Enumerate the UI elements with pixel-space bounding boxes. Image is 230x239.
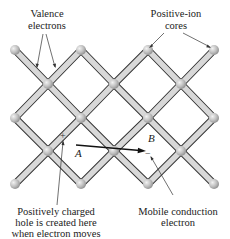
valence-bond [81, 151, 114, 184]
positive-ion-core [209, 179, 219, 189]
positive-ion-core [76, 45, 86, 55]
hole-label-line1: Positively charged [8, 206, 104, 217]
hole-label: Positively charged hole is created here … [8, 206, 104, 239]
valence-bond [15, 118, 48, 151]
positive-ion-core [76, 179, 86, 189]
positive-ion-core [43, 146, 53, 156]
valence-bond [48, 84, 81, 118]
hole-label-line2: hole is created here [8, 217, 104, 228]
positive-ion-core [176, 146, 186, 156]
positive-ion-core [10, 45, 20, 55]
crystal-lattice-diagram [0, 0, 230, 239]
valence-bond [15, 84, 48, 118]
point-b-label: B [148, 132, 155, 144]
bonds [15, 50, 214, 184]
positive-ion-core [209, 45, 219, 55]
leader-lines [37, 33, 210, 205]
positive-ion-core [209, 113, 219, 123]
ion-leader-2 [183, 33, 210, 47]
valence-bond [181, 118, 214, 151]
valence-leader-2 [46, 34, 55, 67]
valence-bond [148, 84, 181, 118]
mobile-electron-label: Mobile conduction electron [133, 206, 223, 228]
ion-label-line1: Positive-ion [145, 8, 207, 20]
valence-bond [81, 84, 114, 118]
valence-bond [48, 50, 81, 84]
valence-arrowhead-2 [53, 63, 56, 68]
mobile-label-line2: electron [133, 217, 223, 228]
positive-ion-core [176, 79, 186, 89]
positive-ion-core [109, 79, 119, 89]
valence-bond [148, 50, 181, 84]
electron-minus-sign: − [145, 148, 151, 159]
valence-bond [81, 50, 114, 84]
valence-bond [148, 151, 181, 184]
positive-ion-core [143, 113, 153, 123]
positive-ion-core [10, 179, 20, 189]
positive-ion-core [143, 179, 153, 189]
valence-electrons-label: Valence electrons [22, 8, 72, 32]
valence-bond [181, 151, 214, 184]
hole-plus-sign: + [60, 130, 66, 141]
valence-bond [114, 151, 148, 184]
hole-leader [57, 142, 63, 205]
mobile-label-line1: Mobile conduction [133, 206, 223, 217]
positive-ion-core [10, 113, 20, 123]
point-a-label: A [75, 147, 82, 159]
ion-label-line2: cores [145, 20, 207, 32]
positive-ion-cores-label: Positive-ion cores [145, 8, 207, 32]
valence-bond [181, 84, 214, 118]
positive-ion-core [43, 79, 53, 89]
ion-cores [10, 45, 219, 189]
positive-ion-core [76, 113, 86, 123]
valence-bond [181, 50, 214, 84]
valence-bond [15, 151, 48, 184]
valence-bond [114, 118, 148, 151]
valence-leader-1 [37, 34, 43, 67]
valence-bond [114, 50, 148, 84]
valence-bond [114, 84, 148, 118]
valence-bond [15, 50, 48, 84]
valence-label-line1: Valence [22, 8, 72, 20]
hole-label-line3: when electron moves [8, 228, 104, 239]
valence-label-line2: electrons [22, 20, 72, 32]
